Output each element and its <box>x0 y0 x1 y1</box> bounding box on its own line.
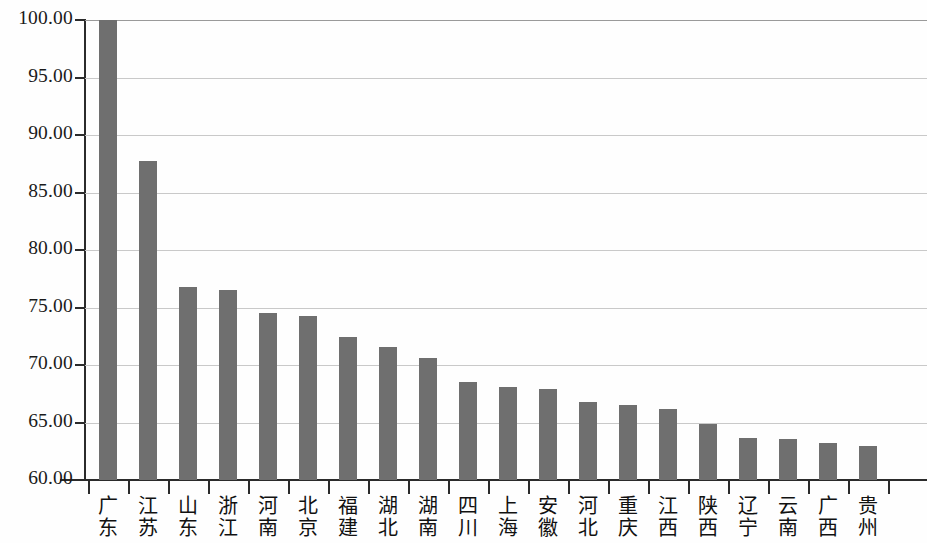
bar <box>379 347 397 480</box>
gridline <box>85 20 927 21</box>
y-axis-tick-label: 80.00 <box>1 237 73 259</box>
bar <box>299 316 317 480</box>
x-axis-tick <box>648 481 650 494</box>
bar <box>659 409 677 480</box>
x-axis-category-label: 湖 南 <box>408 495 448 539</box>
x-axis-category-label: 河 南 <box>248 495 288 539</box>
x-axis-category-label: 福 建 <box>328 495 368 539</box>
x-axis-category-label: 江 西 <box>648 495 688 539</box>
gridline <box>85 365 927 366</box>
x-axis-tick <box>888 481 890 494</box>
y-axis-tick <box>75 249 84 251</box>
y-axis-tick <box>75 307 84 309</box>
bar <box>539 389 557 480</box>
x-axis-category-label: 四 川 <box>448 495 488 539</box>
bar <box>819 443 837 480</box>
y-axis-tick <box>75 19 84 21</box>
x-axis-tick <box>208 481 210 494</box>
gridline <box>85 193 927 194</box>
x-axis-category-label: 浙 江 <box>208 495 248 539</box>
x-axis-category-label: 河 北 <box>568 495 608 539</box>
x-axis-tick <box>608 481 610 494</box>
y-axis-tick-label: 100.00 <box>1 7 73 29</box>
x-axis-category-label: 云 南 <box>768 495 808 539</box>
x-axis-category-label: 陕 西 <box>688 495 728 539</box>
y-axis-tick-label: 70.00 <box>1 352 73 374</box>
y-axis-tick-label: 85.00 <box>1 180 73 202</box>
bar <box>139 161 157 480</box>
bar <box>459 382 477 480</box>
y-axis-tick-label: 95.00 <box>1 65 73 87</box>
x-axis-tick <box>128 481 130 494</box>
bar <box>179 287 197 480</box>
plot-area <box>85 20 927 480</box>
x-axis-tick <box>848 481 850 494</box>
x-axis-tick <box>168 481 170 494</box>
gridline <box>85 78 927 79</box>
y-axis-tick <box>75 422 84 424</box>
bar <box>219 290 237 480</box>
x-axis-category-label: 江 苏 <box>128 495 168 539</box>
x-axis-tick <box>728 481 730 494</box>
y-axis-tick <box>75 364 84 366</box>
gridline <box>85 250 927 251</box>
bar <box>339 337 357 480</box>
x-axis-tick <box>448 481 450 494</box>
x-axis-tick <box>528 481 530 494</box>
bar-chart-figure: 100.0095.0090.0085.0080.0075.0070.0065.0… <box>0 0 927 543</box>
y-axis-tick <box>75 134 84 136</box>
gridline <box>85 135 927 136</box>
x-axis-category-label: 重 庆 <box>608 495 648 539</box>
bar <box>779 439 797 480</box>
bar <box>499 387 517 480</box>
bar <box>739 438 757 480</box>
x-axis-tick <box>288 481 290 494</box>
bar <box>579 402 597 480</box>
x-axis-tick <box>408 481 410 494</box>
x-axis-category-label: 广 西 <box>808 495 848 539</box>
x-axis-category-label: 安 徽 <box>528 495 568 539</box>
x-axis-tick <box>88 481 90 494</box>
y-axis-tick-label: 60.00 <box>1 467 73 489</box>
x-axis-tick <box>368 481 370 494</box>
x-axis-category-label: 湖 北 <box>368 495 408 539</box>
bar <box>619 405 637 480</box>
x-axis-category-label: 北 京 <box>288 495 328 539</box>
x-axis-category-label: 辽 宁 <box>728 495 768 539</box>
x-axis-tick <box>248 481 250 494</box>
y-axis-tick-label: 90.00 <box>1 122 73 144</box>
bar <box>259 313 277 480</box>
y-axis-tick-label: 75.00 <box>1 295 73 317</box>
x-axis-tick <box>328 481 330 494</box>
y-axis-tick <box>75 479 84 481</box>
x-axis-category-label: 贵 州 <box>848 495 888 539</box>
gridline <box>85 308 927 309</box>
x-axis-tick <box>808 481 810 494</box>
y-axis-tick-label: 65.00 <box>1 410 73 432</box>
bar <box>419 358 437 480</box>
x-axis-tick <box>768 481 770 494</box>
x-axis-tick <box>568 481 570 494</box>
x-axis-tick <box>688 481 690 494</box>
y-axis-tick <box>75 192 84 194</box>
x-axis-category-label: 广 东 <box>88 495 128 539</box>
bar <box>699 424 717 480</box>
x-axis-category-label: 山 东 <box>168 495 208 539</box>
bar <box>859 446 877 480</box>
y-axis-tick <box>75 77 84 79</box>
bar <box>99 20 117 480</box>
x-axis-category-label: 上 海 <box>488 495 528 539</box>
x-axis-tick <box>488 481 490 494</box>
